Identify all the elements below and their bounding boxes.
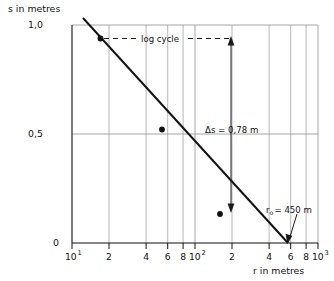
- data-point: [159, 127, 165, 133]
- x-tick-label-2a: 2: [106, 251, 112, 262]
- x-tick-label-8a: 8: [180, 251, 186, 262]
- x-tick-label-4a: 4: [143, 251, 149, 262]
- x-tick-exponent: 3: [325, 249, 329, 257]
- x-tick-label-10e2: 10 2: [189, 249, 206, 262]
- semilog-drawdown-chart: log cycle Δs = 0,78 m ro= 450 m s in met…: [0, 0, 334, 281]
- delta-s-annotation: Δs = 0,78 m: [205, 36, 258, 213]
- x-tick-label-10e3: 10 3: [312, 249, 329, 262]
- y-axis-title: s in metres: [8, 3, 60, 14]
- data-point: [217, 211, 223, 217]
- x-tick-label-8b: 8: [303, 251, 309, 262]
- x-tick-exponent: 1: [78, 249, 82, 257]
- x-tick-exponent: 2: [202, 249, 206, 257]
- x-tick-label-10e1: 10 1: [65, 249, 82, 262]
- log-cycle-label: log cycle: [141, 34, 179, 44]
- x-tick-label-6b: 6: [288, 251, 294, 262]
- x-tick-mantissa: 10: [312, 251, 324, 262]
- y-tick-label-0: 0: [53, 237, 59, 248]
- x-tick-label-4b: 4: [266, 251, 272, 262]
- y-tick-label-1: 1,0: [28, 19, 43, 30]
- x-axis-ticks: [72, 243, 318, 249]
- r0-annotation: ro= 450 m: [266, 205, 312, 244]
- r0-label-value: = 450 m: [274, 205, 311, 215]
- x-tick-mantissa: 10: [65, 251, 77, 262]
- r0-label: ro= 450 m: [266, 205, 312, 217]
- data-point: [98, 36, 104, 42]
- r0-label-subscript: o: [270, 209, 274, 217]
- x-axis-title: r in metres: [253, 265, 304, 276]
- delta-s-label: Δs = 0,78 m: [205, 125, 258, 135]
- x-tick-mantissa: 10: [189, 251, 201, 262]
- x-tick-label-2b: 2: [229, 251, 235, 262]
- chart-figure: log cycle Δs = 0,78 m ro= 450 m s in met…: [0, 0, 334, 281]
- y-tick-label-0-5: 0,5: [28, 128, 43, 139]
- x-tick-label-6a: 6: [165, 251, 171, 262]
- log-cycle-annotation: log cycle: [104, 34, 231, 44]
